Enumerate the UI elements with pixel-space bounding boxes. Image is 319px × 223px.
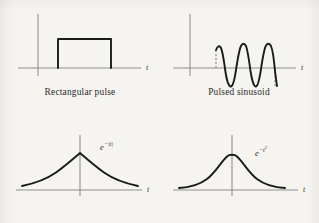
x-axis-label: t — [301, 63, 304, 72]
x-axis-label: t — [146, 63, 149, 72]
x-axis-label: t — [147, 185, 150, 194]
panel-two-sided-exponential-pulse: e−|t| t Two-sided exponential pulse — [0, 110, 160, 223]
panel-rectangular-pulse: t Rectangular pulse — [0, 0, 160, 112]
two-sided-exponential-plot: e−|t| t — [0, 110, 160, 223]
math-label-gaussian: e−t2 — [255, 145, 268, 158]
caption-rectangular-pulse: Rectangular pulse — [0, 87, 160, 97]
gaussian-pulse-plot: e−t2 t — [159, 110, 319, 223]
caption-pulsed-sinusoid: Pulsed sinusoid — [159, 87, 319, 97]
math-label-exponential: e−|t| — [100, 140, 113, 152]
panel-gaussian-pulse: e−t2 t Gaussian pulse — [159, 110, 319, 223]
x-axis-label: t — [303, 185, 306, 194]
pulsed-sinusoid-curve — [216, 44, 277, 87]
rectangular-pulse-curve — [58, 39, 111, 68]
signal-waveforms-figure: t Rectangular pulse t Pulsed sinusoid e−… — [0, 0, 319, 223]
panel-pulsed-sinusoid: t Pulsed sinusoid — [159, 0, 319, 112]
